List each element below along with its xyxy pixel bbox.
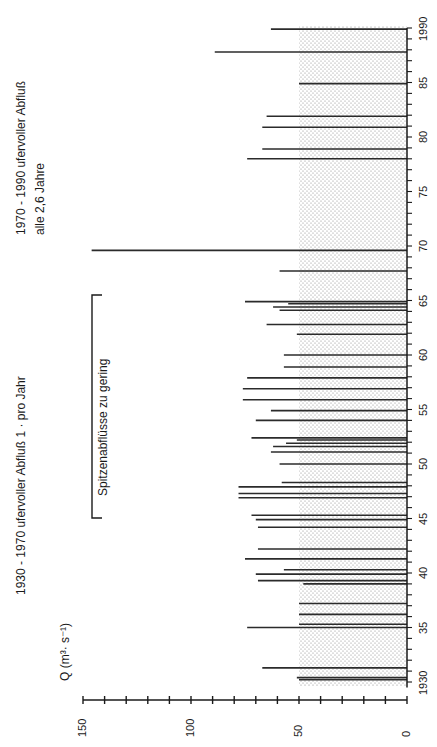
- value-tick-label: 150: [76, 719, 88, 737]
- year-tick-label: 65: [417, 295, 429, 307]
- year-tick-label: 80: [417, 131, 429, 143]
- year-tick-label: 35: [417, 622, 429, 634]
- year-tick-label: 85: [417, 77, 429, 89]
- year-tick-label: 40: [417, 567, 429, 579]
- value-tick-label: 0: [400, 731, 412, 737]
- value-axis: [83, 696, 407, 704]
- annotation-interval: alle 2,6 Jahre: [33, 163, 47, 235]
- year-tick-label: 50: [417, 458, 429, 470]
- year-tick-label: 70: [417, 240, 429, 252]
- value-tick-label: 100: [184, 719, 196, 737]
- annotation-1930-1970: 1930 - 1970 ufervoller Abfluß 1 · pro Ja…: [14, 376, 28, 595]
- year-tick-label: 60: [417, 349, 429, 361]
- value-tick-label: 50: [292, 725, 304, 737]
- year-tick-label: 55: [417, 404, 429, 416]
- year-axis: [407, 28, 412, 687]
- year-tick-label: 1930: [417, 670, 429, 694]
- year-tick-label: 75: [417, 186, 429, 198]
- annotation-1970-1990: 1970 - 1990 ufervoller Abfluß: [14, 81, 28, 235]
- year-tick-label: 1990: [417, 16, 429, 40]
- bracket-label: Spitzenabflüsse zu gering: [96, 359, 110, 496]
- y-axis-title: Q (m³· s⁻¹): [58, 623, 72, 681]
- bankfull-zone: [299, 26, 407, 686]
- year-tick-label: 45: [417, 513, 429, 525]
